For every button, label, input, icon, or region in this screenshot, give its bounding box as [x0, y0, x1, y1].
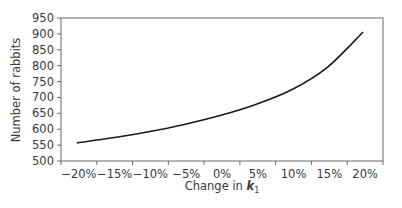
line-chart: 500550600650700750800850900950 −20%−15%−… — [0, 0, 402, 208]
y-tick-label: 900 — [32, 27, 54, 41]
y-tick-label: 800 — [32, 59, 54, 73]
x-tick-label: 10% — [281, 167, 307, 181]
x-tick-label: −10% — [133, 167, 168, 181]
x-axis-label: Change in k1 — [185, 179, 260, 195]
y-tick-label: 500 — [32, 154, 54, 168]
y-tick-label: 700 — [32, 90, 54, 104]
y-tick-label: 750 — [32, 75, 54, 89]
x-axis: −20%−15%−10%−5%0%5%10%15%20% — [61, 161, 383, 181]
y-tick-label: 550 — [32, 138, 54, 152]
x-tick-label: 15% — [317, 167, 343, 181]
y-axis: 500550600650700750800850900950 — [32, 11, 61, 168]
y-tick-label: 850 — [32, 43, 54, 57]
y-tick-label: 950 — [32, 11, 54, 25]
plot-frame — [61, 18, 383, 161]
y-tick-label: 600 — [32, 122, 54, 136]
x-tick-label: −20% — [61, 167, 96, 181]
x-tick-label: 20% — [352, 167, 378, 181]
x-tick-label: −15% — [97, 167, 132, 181]
y-tick-label: 650 — [32, 106, 54, 120]
y-axis-label: Number of rabbits — [9, 38, 23, 143]
data-line — [77, 32, 363, 143]
